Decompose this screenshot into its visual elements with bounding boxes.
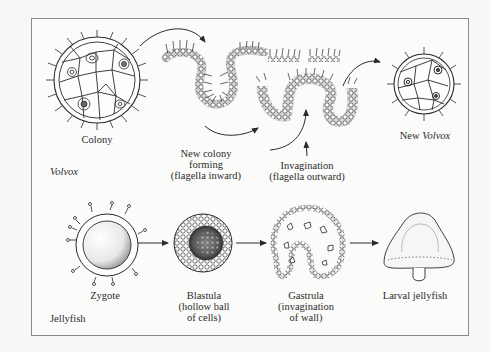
label-new-volvox-genus: Volvox xyxy=(422,130,450,141)
invagination-illustration xyxy=(256,48,357,122)
label-new-colony-line2: forming xyxy=(156,159,256,170)
label-blastula-line1: Blastula xyxy=(172,290,236,301)
label-invagination-line1: Invagination xyxy=(255,160,359,171)
zygote-illustration xyxy=(67,202,147,286)
label-colony: Colony xyxy=(77,134,117,145)
label-larval-jellyfish: Larval jellyfish xyxy=(370,290,460,301)
label-new-colony-line3: (flagella inward) xyxy=(156,170,256,181)
label-invagination: Invagination (flagella outward) xyxy=(255,160,359,182)
new-colony-forming-illustration xyxy=(166,40,264,104)
label-new-colony-forming: New colony forming (flagella inward) xyxy=(156,148,256,181)
gastrula-illustration xyxy=(274,208,343,276)
label-gastrula-line2: (invagination xyxy=(266,301,346,312)
label-blastula-line3: of cells) xyxy=(172,312,236,323)
label-zygote: Zygote xyxy=(80,290,130,301)
label-gastrula-line1: Gastrula xyxy=(266,290,346,301)
label-gastrula-line3: of wall) xyxy=(266,312,346,323)
label-blastula: Blastula (hollow ball of cells) xyxy=(172,290,236,323)
label-blastula-line2: (hollow ball xyxy=(172,301,236,312)
arrow-new-colony-to-invagination xyxy=(205,126,258,135)
larval-jellyfish-illustration xyxy=(384,213,454,281)
label-organism-volvox: Volvox xyxy=(50,166,78,177)
label-new-volvox-prefix: New xyxy=(400,130,422,141)
label-new-colony-line1: New colony xyxy=(156,148,256,159)
label-invagination-line2: (flagella outward) xyxy=(255,171,359,182)
arrow-colony-to-new-colony xyxy=(140,29,205,46)
blastula-illustration xyxy=(174,214,232,272)
new-volvox-illustration xyxy=(387,47,461,121)
label-organism-jellyfish: Jellyfish xyxy=(50,313,86,324)
volvox-colony-illustration xyxy=(46,30,148,130)
label-gastrula: Gastrula (invagination of wall) xyxy=(266,290,346,323)
arrow-label-pointer-to-invagination xyxy=(306,142,307,156)
label-new-volvox: New Volvox xyxy=(392,130,458,141)
